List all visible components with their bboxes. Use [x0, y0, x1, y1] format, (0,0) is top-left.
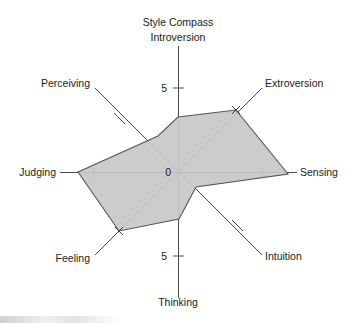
- chart-title: Style Compass: [143, 16, 214, 28]
- axis-label-sensing: Sensing: [300, 166, 338, 178]
- tick-mark-intuition-5: [232, 220, 243, 231]
- data-polygon: [78, 110, 288, 231]
- axis-label-judging: Judging: [19, 166, 56, 178]
- axis-label-introversion: Introversion: [151, 31, 206, 43]
- axis-label-intuition: Intuition: [265, 250, 302, 262]
- axis-label-extroversion: Extroversion: [265, 77, 324, 89]
- axis-label-feeling: Feeling: [56, 252, 91, 264]
- tick-label-bottom-5: 5: [161, 250, 167, 262]
- radar-chart-svg: Style Compass Introversion Extroversion …: [0, 0, 356, 324]
- axis-label-perceiving: Perceiving: [41, 77, 90, 89]
- axis-label-thinking: Thinking: [158, 296, 198, 308]
- tick-label-top-5: 5: [161, 82, 167, 94]
- origin-label: 0: [165, 166, 171, 178]
- style-compass-chart: Style Compass Introversion Extroversion …: [0, 0, 356, 324]
- tick-mark-perceiving-5: [114, 113, 125, 124]
